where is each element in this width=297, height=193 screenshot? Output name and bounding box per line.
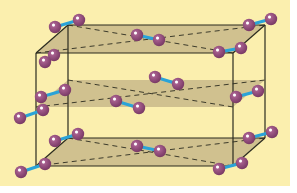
- atom-sphere: [73, 14, 85, 26]
- atom-highlight: [42, 161, 45, 164]
- atom-highlight: [216, 166, 219, 169]
- atom-sphere: [110, 95, 122, 107]
- atom-highlight: [18, 169, 21, 172]
- atom-highlight: [268, 16, 271, 19]
- atom-sphere: [213, 163, 225, 175]
- atom-sphere: [153, 34, 165, 46]
- atom-highlight: [51, 52, 54, 55]
- atom-sphere: [243, 19, 255, 31]
- atom-sphere: [15, 166, 27, 178]
- atom-highlight: [17, 115, 20, 118]
- atom-highlight: [269, 129, 272, 132]
- atom-highlight: [233, 94, 236, 97]
- atom-sphere: [133, 102, 145, 114]
- atom-sphere: [149, 71, 161, 83]
- atom-highlight: [255, 88, 258, 91]
- atom-highlight: [246, 22, 249, 25]
- atom-sphere: [236, 157, 248, 169]
- atom-highlight: [62, 87, 65, 90]
- atom-sphere: [131, 29, 143, 41]
- atom-highlight: [175, 81, 178, 84]
- atom-highlight: [52, 138, 55, 141]
- atom-sphere: [39, 56, 51, 68]
- atom-sphere: [154, 145, 166, 157]
- atom-sphere: [49, 21, 61, 33]
- atom-sphere: [72, 128, 84, 140]
- atom-sphere: [131, 140, 143, 152]
- atom-highlight: [157, 148, 160, 151]
- crystal-structure-diagram: [0, 0, 297, 193]
- atom-sphere: [230, 91, 242, 103]
- atom-sphere: [266, 126, 278, 138]
- atom-highlight: [75, 131, 78, 134]
- atom-highlight: [136, 105, 139, 108]
- atom-sphere: [35, 91, 47, 103]
- atom-highlight: [152, 74, 155, 77]
- atom-sphere: [59, 84, 71, 96]
- atom-sphere: [235, 42, 247, 54]
- atom-highlight: [76, 17, 79, 20]
- atom-highlight: [134, 143, 137, 146]
- atom-highlight: [134, 32, 137, 35]
- atom-sphere: [37, 104, 49, 116]
- atom-sphere: [265, 13, 277, 25]
- atom-sphere: [243, 132, 255, 144]
- atom-sphere: [49, 135, 61, 147]
- atom-highlight: [40, 107, 43, 110]
- atom-sphere: [252, 85, 264, 97]
- atom-highlight: [156, 37, 159, 40]
- atom-highlight: [246, 135, 249, 138]
- atom-highlight: [42, 59, 45, 62]
- atom-highlight: [216, 49, 219, 52]
- atom-highlight: [238, 45, 241, 48]
- atom-highlight: [239, 160, 242, 163]
- atom-highlight: [113, 98, 116, 101]
- atom-sphere: [14, 112, 26, 124]
- diagram-canvas: [0, 0, 297, 193]
- atom-highlight: [52, 24, 55, 27]
- atom-highlight: [38, 94, 41, 97]
- atom-sphere: [39, 158, 51, 170]
- atom-sphere: [213, 46, 225, 58]
- atom-sphere: [172, 78, 184, 90]
